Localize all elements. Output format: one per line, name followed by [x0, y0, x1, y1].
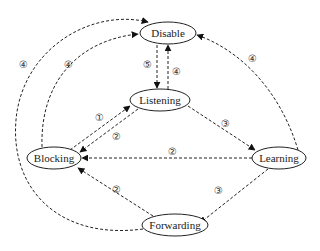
edge-label-learning-to-forwarding: ③ — [214, 185, 223, 196]
edge-label-listening-to-blocking: ② — [112, 131, 121, 142]
edge-label-blocking-to-listening: ① — [95, 112, 104, 123]
node-forwarding-label: Forwarding — [149, 219, 201, 231]
edge-label-learning-to-disable: ④ — [248, 53, 257, 64]
edge-label-disable-to-listening: ⑤ — [143, 59, 152, 70]
node-forwarding: Forwarding — [142, 214, 208, 236]
node-learning: Learning — [252, 147, 306, 169]
edge-label-forwarding-to-disable: ④ — [19, 59, 28, 70]
edge-label-learning-to-blocking: ② — [168, 146, 177, 157]
node-disable-label: Disable — [151, 27, 185, 39]
node-disable: Disable — [140, 22, 196, 44]
edge-blocking-to-disable — [42, 34, 138, 147]
edges — [16, 19, 298, 230]
node-listening: Listening — [130, 89, 190, 111]
node-blocking: Blocking — [27, 147, 81, 169]
edge-forwarding-to-disable — [16, 19, 148, 230]
edge-listening-to-blocking — [80, 109, 138, 152]
edge-learning-to-forwarding — [200, 169, 268, 223]
edge-labels: ⑤ ④ ① ② ③ ② ③ ② ④ ④ ④ — [19, 53, 257, 196]
state-diagram: ⑤ ④ ① ② ③ ② ③ ② ④ ④ ④ Disable Listening … — [0, 0, 320, 251]
node-blocking-label: Blocking — [34, 152, 75, 164]
edge-label-listening-to-disable: ④ — [172, 66, 181, 77]
edge-label-forwarding-to-blocking: ② — [112, 184, 121, 195]
edge-label-listening-to-learning: ③ — [221, 118, 230, 129]
edge-label-blocking-to-disable: ④ — [64, 59, 73, 70]
node-listening-label: Listening — [139, 94, 181, 106]
node-learning-label: Learning — [259, 152, 299, 164]
